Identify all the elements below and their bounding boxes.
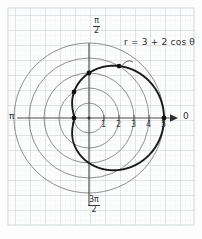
point-theta-180-r1 [72, 116, 77, 121]
axis-label-pi: π [9, 112, 14, 121]
radial-tick-label-1: 1 [101, 121, 106, 129]
point-theta-120-r2 [72, 90, 77, 95]
origin-point [88, 117, 91, 120]
radial-tick-label-4: 4 [146, 121, 151, 129]
axis-label-three-pi-over-2: 3π 2 [88, 196, 100, 215]
axis-label-pi-over-2: π 2 [93, 17, 100, 36]
three-pi-over-2-numerator: 3π [88, 196, 100, 204]
point-theta-90-r3 [87, 71, 92, 76]
pi-over-2-numerator: π [93, 17, 100, 25]
pi-over-2-denominator: 2 [93, 27, 100, 35]
radial-tick-label-5: 5 [161, 121, 166, 129]
curve-equation-label: r = 3 + 2 cos θ [124, 38, 195, 47]
radial-tick-label-2: 2 [116, 121, 121, 129]
point-theta-60-r4 [117, 64, 122, 69]
polar-graph-figure: r = 3 + 2 cos θ 0 π π 2 3π 2 1 2 3 4 5 [0, 0, 202, 239]
three-pi-over-2-denominator: 2 [88, 206, 100, 214]
radial-tick-label-3: 3 [131, 121, 136, 129]
axis-label-zero: 0 [183, 112, 189, 121]
